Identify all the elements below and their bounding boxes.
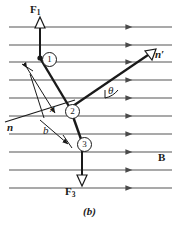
dimension-b-label: b: [43, 125, 49, 136]
normal-n-prime-label: n′: [155, 49, 164, 60]
dimension-x-tick-top: [22, 64, 33, 71]
vertex-label-2: 2: [65, 104, 80, 119]
force-f3-symbol: F: [65, 185, 72, 197]
dimension-x-label: x: [50, 104, 54, 114]
force-f1-subscript: 1: [37, 8, 41, 17]
physics-figure: 1 2 3 F1 n′ θ x n b B F3 (b): [0, 0, 179, 228]
force-f1-label: F1: [30, 4, 40, 16]
vertex-label-3: 3: [77, 137, 92, 152]
force-f3-label: F3: [65, 186, 75, 198]
force-f1-symbol: F: [30, 3, 37, 15]
force-f1-vector: [35, 17, 45, 58]
figure-canvas: [0, 0, 179, 228]
force-f3-arrowhead: [77, 175, 87, 186]
figure-caption: (b): [0, 206, 179, 217]
vertex-label-1: 1: [42, 52, 57, 67]
force-f3-subscript: 3: [72, 190, 76, 199]
normal-n-label: n: [7, 122, 13, 133]
magnetic-field-label: B: [158, 152, 165, 163]
normal-n-prime-shaft: [70, 55, 148, 108]
normal-n-prime-vector: [70, 49, 156, 108]
force-f1-arrowhead: [35, 17, 45, 28]
angle-theta-label: θ: [108, 85, 113, 96]
